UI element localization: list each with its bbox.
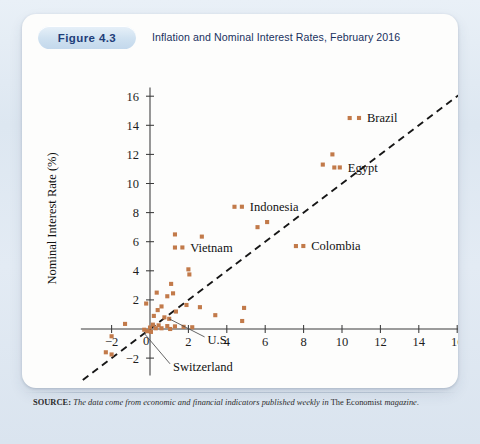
svg-text:10: 10 [336,335,349,349]
source-divider [24,392,458,393]
figure-card: Figure 4.3 Inflation and Nominal Interes… [22,14,458,388]
svg-text:Brazil: Brazil [367,111,398,125]
svg-text:Indonesia: Indonesia [250,200,299,214]
svg-text:2: 2 [133,293,139,307]
source-note: SOURCE: The data come from economic and … [33,398,453,407]
source-label: SOURCE: [33,398,71,407]
svg-text:12: 12 [374,335,387,349]
svg-text:8: 8 [133,206,139,220]
source-publication: The Economist [331,398,383,407]
svg-text:Switzerland: Switzerland [173,360,233,374]
svg-text:−2: −2 [126,352,139,366]
scatter-plot: −20246810121416−2246810121416 BrazilEgyp… [22,58,458,388]
svg-text:Nominal Interest Rate (%): Nominal Interest Rate (%) [45,152,59,284]
svg-text:Vietnam: Vietnam [190,241,233,255]
reference-line-45deg [83,93,458,380]
svg-text:14: 14 [413,335,426,349]
svg-text:Egypt: Egypt [348,161,378,175]
svg-text:8: 8 [300,335,306,349]
point-annotations: BrazilEgyptIndonesiaColombiaVietnamU.S.S… [173,111,398,374]
axis-titles: Inflation Rate (%)Nominal Interest Rate … [45,152,318,388]
svg-text:4: 4 [133,264,140,278]
svg-text:6: 6 [262,335,268,349]
svg-text:U.S.: U.S. [208,333,230,347]
svg-text:14: 14 [127,119,140,133]
source-text-italic-2: magazine. [384,398,419,407]
svg-text:Colombia: Colombia [311,239,361,253]
figure-number-badge: Figure 4.3 [38,26,136,49]
svg-text:16: 16 [451,335,458,349]
svg-text:10: 10 [127,177,140,191]
data-points [104,116,352,357]
svg-text:2: 2 [185,335,191,349]
source-text-italic-1: The data come from economic and financia… [73,398,328,407]
figure-header: Figure 4.3 Inflation and Nominal Interes… [22,14,458,58]
figure-title: Inflation and Nominal Interest Rates, Fe… [152,31,400,43]
plot-canvas: −20246810121416−2246810121416 BrazilEgyp… [22,58,458,388]
svg-text:12: 12 [127,148,140,162]
svg-text:16: 16 [127,90,140,104]
svg-text:6: 6 [133,235,139,249]
